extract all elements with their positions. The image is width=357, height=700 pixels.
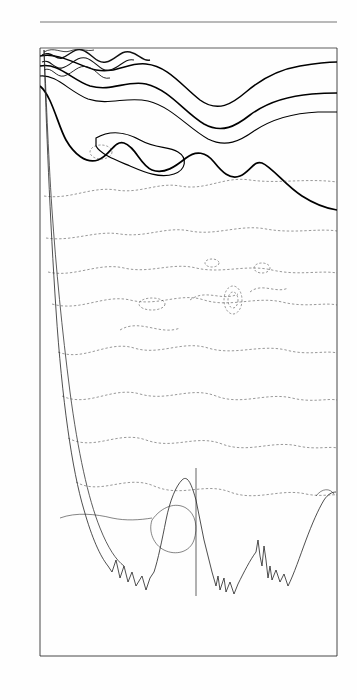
contour-35-0 <box>40 86 337 210</box>
salinity-section-figure <box>0 0 357 700</box>
deep-contours <box>44 179 337 495</box>
bottom-water-contour <box>60 514 152 520</box>
major-contours-upper <box>40 55 337 143</box>
contour-36-5 <box>40 55 337 106</box>
shelf-water-tangle <box>42 49 150 78</box>
salinity-lobe <box>96 133 184 176</box>
section-plot-area <box>40 49 337 596</box>
contour-36-0b <box>40 76 337 143</box>
seafloor-profile <box>44 50 336 594</box>
bottom-water-cell <box>151 505 196 552</box>
section-svg <box>0 0 357 700</box>
